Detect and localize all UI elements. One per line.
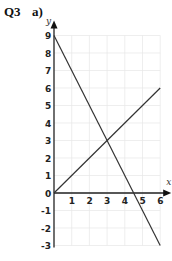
y-tick-label: -2 (41, 224, 51, 234)
x-axis-arrow-icon (163, 190, 171, 197)
x-axis-label: x (166, 177, 171, 187)
x-tick-label: 2 (86, 196, 92, 206)
y-tick-label: 3 (45, 136, 51, 146)
x-tick-label: 6 (157, 196, 163, 206)
y-tick-label: 5 (45, 101, 51, 111)
x-tick-label: 5 (140, 196, 146, 206)
x-tick-label: 1 (69, 196, 75, 206)
y-tick-label: 7 (45, 66, 51, 76)
y-tick-label: 2 (45, 154, 51, 164)
y-tick-label: 8 (45, 49, 51, 59)
y-tick-label: 0 (45, 189, 51, 199)
y-axis-arrow-icon (51, 21, 58, 29)
y-axis-label: y (45, 16, 52, 26)
x-tick-label: 4 (122, 196, 128, 206)
y-tick-label: -1 (41, 206, 51, 216)
line-chart: yx1234569876543210-1-2-3 (0, 0, 172, 261)
y-tick-label: 4 (45, 119, 51, 129)
y-tick-label: 1 (45, 171, 51, 181)
y-tick-label: 6 (45, 84, 51, 94)
y-tick-label: -3 (41, 241, 51, 251)
y-tick-label: 9 (45, 31, 51, 41)
x-tick-label: 3 (104, 196, 110, 206)
